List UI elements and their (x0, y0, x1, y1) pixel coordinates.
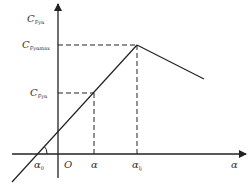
lift-coefficient-diagram: CFyα CFyαmax CFyα α0 O α αlj α (0, 0, 249, 186)
x-axis-label: α (231, 160, 238, 170)
rising-line (12, 45, 137, 182)
origin-label: O (64, 160, 72, 170)
y-max-label: CFyαmax (22, 40, 50, 51)
y-axis-label: CFyα (27, 14, 44, 25)
alpha-lj-label: αlj (132, 160, 142, 171)
y-alpha-label: CFyα (30, 88, 47, 99)
descending-line (137, 45, 204, 79)
alpha0-angle-arc (44, 146, 47, 154)
alpha-label: α (91, 160, 98, 170)
alpha0-label: α0 (34, 160, 44, 171)
